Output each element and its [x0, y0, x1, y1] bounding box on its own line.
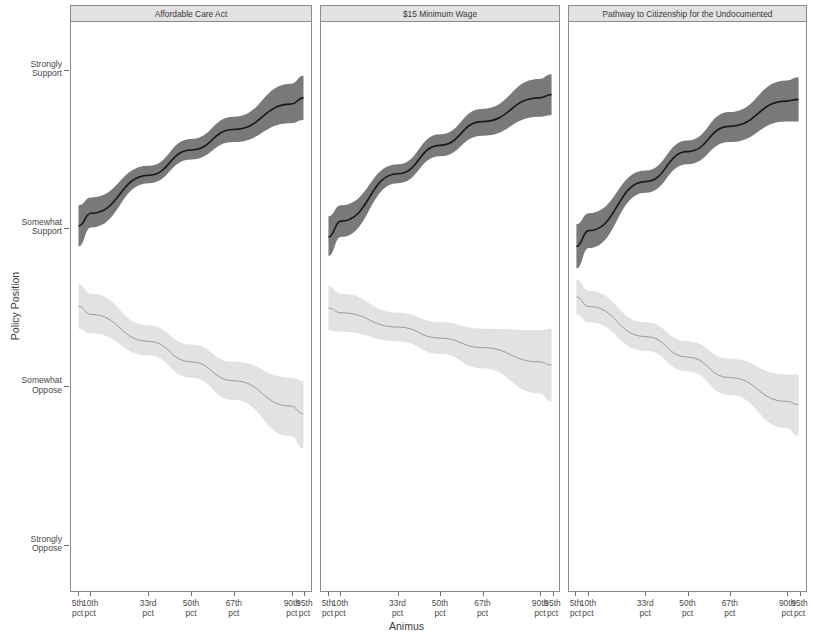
x-tick-label: 10thpct: [320, 598, 360, 618]
x-tick-label-line2: pct: [668, 608, 708, 618]
facet-panel: $15 Minimum Wage: [320, 5, 560, 592]
x-tick-label-line2: pct: [625, 608, 665, 618]
x-tick-mark: [78, 592, 79, 596]
x-tick-label-line1: 33rd: [128, 598, 168, 608]
confidence-band: [576, 280, 798, 436]
x-tick-label-line1: 67th: [710, 598, 750, 608]
confidence-band: [328, 286, 551, 401]
x-tick-label: 33rdpct: [128, 598, 168, 618]
facet-chart-figure: Policy Position StronglySupportSomewhatS…: [0, 0, 813, 643]
x-tick-label-line1: 10th: [568, 598, 608, 608]
x-tick-mark: [191, 592, 192, 596]
x-tick-label: 10thpct: [568, 598, 608, 618]
x-tick-label-line1: 33rd: [625, 598, 665, 608]
x-tick-label-line1: 95th: [780, 598, 813, 608]
x-tick-label: 67thpct: [463, 598, 503, 618]
panel-title: Affordable Care Act: [155, 9, 227, 19]
x-tick-label: 95thpct: [780, 598, 813, 618]
x-axis-title-label: Animus: [389, 620, 424, 632]
x-tick-mark: [730, 592, 731, 596]
y-tick-label-line2: Support: [4, 227, 62, 237]
x-tick-mark: [575, 592, 576, 596]
y-tick-label: SomewhatOppose: [4, 376, 62, 395]
x-tick-label-line1: 10th: [320, 598, 360, 608]
x-tick-label: 33rdpct: [378, 598, 418, 618]
y-tick-mark: [64, 228, 69, 229]
facet-panel: Affordable Care Act: [70, 5, 312, 592]
x-tick-label-line2: pct: [780, 608, 813, 618]
x-tick-mark: [787, 592, 788, 596]
x-tick-label-line1: 67th: [214, 598, 254, 608]
x-tick-label: 33rdpct: [625, 598, 665, 618]
x-tick-label-line2: pct: [568, 608, 608, 618]
x-tick-label: 50thpct: [420, 598, 460, 618]
x-tick-label-line2: pct: [710, 608, 750, 618]
x-tick-mark: [148, 592, 149, 596]
y-tick-label-line2: Oppose: [4, 544, 62, 554]
panel-plot-area: [568, 22, 807, 592]
y-tick-label-line2: Oppose: [4, 386, 62, 396]
y-tick-label: StronglySupport: [4, 60, 62, 79]
x-tick-mark: [398, 592, 399, 596]
x-axis-title: Animus: [0, 620, 813, 632]
x-tick-label-line1: 50th: [171, 598, 211, 608]
y-tick-label-line2: Support: [4, 69, 62, 79]
x-tick-label: 67thpct: [710, 598, 750, 618]
x-tick-label: 10thpct: [70, 598, 110, 618]
x-tick-label-line1: 50th: [420, 598, 460, 608]
x-tick-label-line2: pct: [214, 608, 254, 618]
x-tick-label-line2: pct: [320, 608, 360, 618]
confidence-band: [78, 76, 303, 247]
panel-title: $15 Minimum Wage: [403, 9, 477, 19]
x-tick-mark: [292, 592, 293, 596]
x-tick-mark: [234, 592, 235, 596]
x-tick-label-line2: pct: [463, 608, 503, 618]
x-tick-mark: [340, 592, 341, 596]
confidence-band: [328, 74, 551, 256]
x-tick-mark: [553, 592, 554, 596]
x-tick-mark: [90, 592, 91, 596]
x-tick-label-line2: pct: [70, 608, 110, 618]
y-tick-mark: [64, 545, 69, 546]
x-tick-mark: [483, 592, 484, 596]
x-tick-mark: [328, 592, 329, 596]
panel-title: Pathway to Citizenship for the Undocumen…: [603, 9, 773, 19]
panel-plot-area: [320, 22, 560, 592]
x-tick-mark: [645, 592, 646, 596]
x-tick-label: 50thpct: [668, 598, 708, 618]
x-tick-label-line1: 10th: [70, 598, 110, 608]
x-tick-mark: [440, 592, 441, 596]
y-tick-label: StronglyOppose: [4, 535, 62, 554]
panel-plot-area: [70, 22, 312, 592]
panel-strip: Affordable Care Act: [70, 5, 312, 22]
x-tick-label-line1: 67th: [463, 598, 503, 608]
x-tick-mark: [688, 592, 689, 596]
x-tick-label-line2: pct: [378, 608, 418, 618]
x-tick-label-line1: 50th: [668, 598, 708, 608]
y-tick-label: SomewhatSupport: [4, 218, 62, 237]
x-tick-mark: [588, 592, 589, 596]
panel-strip: Pathway to Citizenship for the Undocumen…: [568, 5, 807, 22]
x-tick-label-line2: pct: [420, 608, 460, 618]
confidence-band: [576, 77, 798, 268]
panel-strip: $15 Minimum Wage: [320, 5, 560, 22]
x-tick-label-line2: pct: [128, 608, 168, 618]
x-tick-label-line1: 33rd: [378, 598, 418, 608]
x-tick-label: 67thpct: [214, 598, 254, 618]
x-tick-mark: [540, 592, 541, 596]
y-axis-title-label: Policy Position: [9, 241, 21, 371]
y-tick-mark: [64, 70, 69, 71]
x-tick-mark: [304, 592, 305, 596]
x-tick-mark: [800, 592, 801, 596]
x-tick-label-line2: pct: [171, 608, 211, 618]
x-tick-label: 50thpct: [171, 598, 211, 618]
facet-panel: Pathway to Citizenship for the Undocumen…: [568, 5, 807, 592]
y-tick-mark: [64, 386, 69, 387]
confidence-band: [78, 284, 303, 448]
